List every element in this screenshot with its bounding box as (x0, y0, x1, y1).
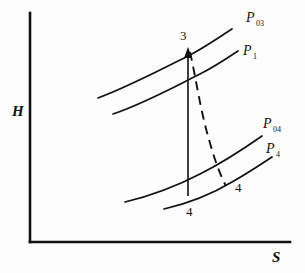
state-label-4-ideal: 4 (186, 204, 193, 219)
pressure-label-p4-symbol: P (265, 141, 275, 156)
pressure-label-p03: P 03 (245, 10, 264, 28)
pressure-label-p1: P 1 (242, 43, 257, 61)
state-label-4-actual: 4 (235, 180, 242, 195)
state-label-3: 3 (180, 28, 187, 43)
pressure-label-p03-subscript: 03 (256, 19, 264, 28)
pressure-label-p04-subscript: 04 (273, 125, 281, 134)
y-axis-label: H (11, 103, 25, 119)
pressure-label-p1-symbol: P (242, 43, 252, 58)
hs-diagram-canvas: H S P 03 P 1 P 04 P 4 (0, 0, 305, 273)
pressure-label-p1-subscript: 1 (253, 52, 257, 61)
pressure-label-p4-subscript: 4 (276, 150, 280, 159)
x-axis-label: S (272, 249, 280, 265)
hs-diagram-figure: H S P 03 P 1 P 04 P 4 (0, 0, 305, 273)
pressure-curve-p03 (98, 29, 232, 98)
pressure-label-p04-symbol: P (262, 116, 272, 131)
pressure-label-p03-symbol: P (245, 10, 255, 25)
actual-process-dashed-line (190, 52, 226, 186)
process-lines-group (184, 47, 226, 196)
pressure-curve-p1 (113, 51, 238, 114)
pressure-label-p04: P 04 (262, 116, 281, 134)
pressure-label-p4: P 4 (265, 141, 280, 159)
